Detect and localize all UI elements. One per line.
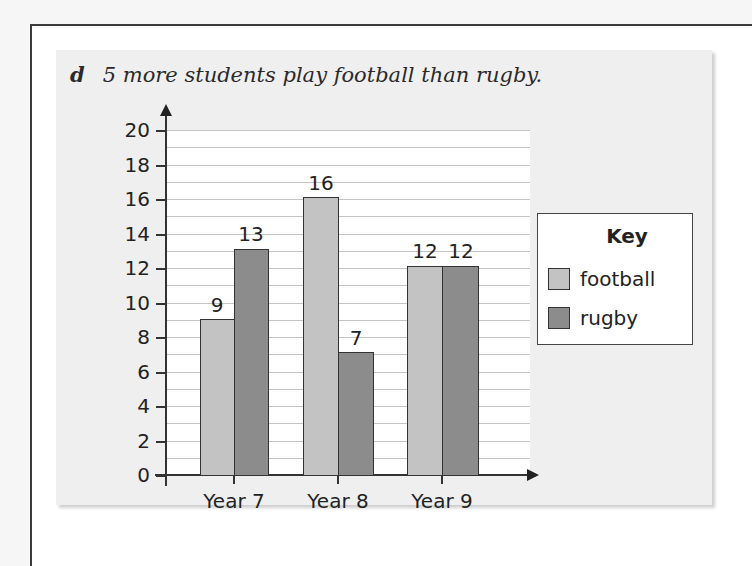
value-label-year8-football: 16 [301, 171, 341, 195]
bar-year8-rugby [338, 352, 374, 476]
gridline [165, 147, 530, 148]
legend-label-rugby: rugby [580, 306, 638, 330]
legend-title: Key [538, 224, 692, 248]
gridline [165, 130, 530, 131]
y-tick-label: 12 [100, 258, 150, 278]
question-letter: d [70, 62, 85, 87]
bar-year9-rugby [442, 266, 479, 476]
y-axis-arrow-icon [160, 104, 172, 116]
legend-item-rugby: rugby [548, 305, 638, 331]
gridline [165, 182, 530, 183]
y-tick-label: 10 [100, 293, 150, 313]
bar-year9-football [407, 266, 443, 476]
gridline [165, 234, 530, 235]
legend-key: Key football rugby [537, 213, 693, 345]
y-tick-label: 6 [100, 362, 150, 382]
x-tick-year8 [337, 475, 339, 484]
x-label-year8: Year 8 [288, 489, 388, 513]
value-label-year8-rugby: 7 [336, 326, 376, 350]
question-text: 5 more students play football than rugby… [103, 63, 542, 87]
value-label-year9-rugby: 12 [441, 239, 481, 263]
bar-year8-football [303, 197, 339, 476]
legend-item-football: football [548, 266, 655, 292]
legend-label-football: football [580, 267, 655, 291]
y-tick-label: 20 [100, 120, 150, 140]
gridline [165, 216, 530, 217]
y-tick-label: 4 [100, 396, 150, 416]
x-label-year9: Year 9 [392, 489, 492, 513]
x-axis-arrow-icon [527, 469, 539, 481]
x-tick-year7 [233, 475, 235, 484]
value-label-year9-football: 12 [405, 239, 445, 263]
y-tick-label: 8 [100, 327, 150, 347]
y-tick-label: 14 [100, 224, 150, 244]
y-tick-label: 2 [100, 431, 150, 451]
x-label-year7: Year 7 [184, 489, 284, 513]
question-statement: d5 more students play football than rugb… [70, 62, 542, 87]
bar-year7-rugby [234, 249, 269, 476]
value-label-year7-rugby: 13 [231, 222, 271, 246]
value-label-year7-football: 9 [197, 293, 237, 317]
rugby-swatch [548, 307, 570, 329]
y-tick-label: 18 [100, 155, 150, 175]
gridline [165, 199, 530, 200]
gridline [165, 165, 530, 166]
y-axis [165, 110, 167, 486]
y-tick-label: 0 [100, 465, 150, 485]
x-tick-year9 [441, 475, 443, 484]
football-swatch [548, 268, 570, 290]
bar-year7-football [200, 319, 235, 476]
y-tick-label: 16 [100, 189, 150, 209]
